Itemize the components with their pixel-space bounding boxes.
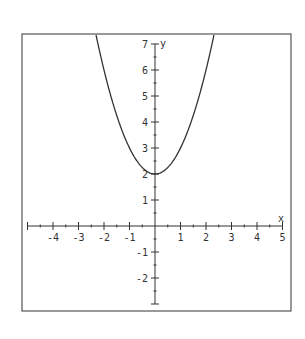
x-tick-label: -1	[123, 232, 135, 243]
x-tick-label: 4	[254, 232, 260, 243]
y-tick-label: -2	[136, 273, 148, 284]
x-tick-label: 1	[177, 232, 183, 243]
x-tick-label: -3	[72, 232, 84, 243]
plot-frame	[22, 34, 291, 311]
y-tick-label: 4	[142, 117, 148, 128]
x-tick-label: -4	[47, 232, 59, 243]
y-tick-label: -1	[136, 247, 148, 258]
x-axis-label: x	[278, 213, 284, 224]
y-axis-label: y	[160, 38, 166, 49]
y-tick-label: 6	[142, 65, 148, 76]
x-tick-label: 2	[203, 232, 209, 243]
x-tick-label: 3	[228, 232, 234, 243]
y-tick-label: 7	[142, 39, 148, 50]
x-tick-label: 5	[279, 232, 285, 243]
y-tick-label: 5	[142, 91, 148, 102]
y-tick-label: 1	[142, 195, 148, 206]
y-tick-label: 3	[142, 143, 148, 154]
chart: -4-3-2-112345-2-11234567 x y	[0, 0, 305, 339]
x-tick-label: -2	[98, 232, 110, 243]
